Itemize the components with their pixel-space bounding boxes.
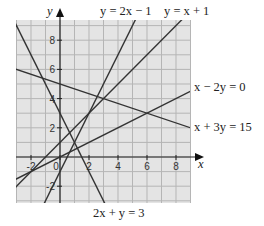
label-line-x-plus-1: y = x + 1	[164, 4, 209, 19]
label-line-2x-plus-y: 2x + y = 3	[93, 206, 145, 221]
label-line-x-plus-3y: x + 3y = 15	[194, 120, 252, 135]
x-tick-label: 4	[115, 161, 121, 172]
x-tick-label: 8	[173, 161, 179, 172]
y-tick-label: 2	[49, 123, 55, 134]
x-tick-label: 6	[144, 161, 150, 172]
y-arrow-icon	[56, 8, 64, 17]
x-axis-label: x	[198, 157, 204, 172]
y-axis-label: y	[47, 4, 53, 19]
graph: -202468-22468	[0, 0, 264, 226]
label-line-x-minus-2y: x − 2y = 0	[194, 80, 246, 95]
label-line-2x-minus-1: y = 2x − 1	[100, 4, 152, 19]
y-tick-label: 6	[49, 64, 55, 75]
y-tick-label: 8	[49, 35, 55, 46]
x-tick-label: 0	[53, 161, 59, 172]
